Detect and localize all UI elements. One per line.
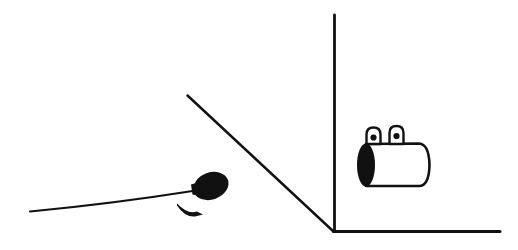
cylinder-end-cap (357, 144, 375, 187)
cylinder-loop-left-dot (370, 134, 376, 140)
cylinder-loop-right-dot (393, 133, 399, 139)
drawing-canvas: Line drawing of a dart and a wall-mounte… (0, 0, 518, 250)
canvas-background (0, 0, 518, 250)
scene-illustration (0, 0, 518, 250)
